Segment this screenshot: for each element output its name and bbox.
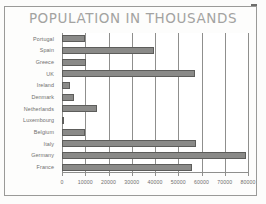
bar-row <box>62 152 248 159</box>
category-label-france: France <box>37 164 54 170</box>
bar-greece[interactable] <box>62 59 86 66</box>
category-axis: PortugalSpainGreeceUKIrelandDenmarkNethe… <box>0 33 58 173</box>
x-tick <box>85 173 86 176</box>
bar-luxembourg[interactable] <box>62 117 64 124</box>
x-tick <box>178 173 179 176</box>
bar-row <box>62 47 248 54</box>
category-label-greece: Greece <box>36 59 54 65</box>
category-label-netherlands: Netherlands <box>24 106 54 112</box>
x-tick <box>132 173 133 176</box>
bar-germany[interactable] <box>62 152 246 159</box>
category-label-spain: Spain <box>40 47 54 53</box>
x-tick <box>248 173 249 176</box>
x-tick-label: 40000 <box>148 179 163 185</box>
x-tick-label: 20000 <box>101 179 116 185</box>
bar-portugal[interactable] <box>62 35 85 42</box>
bar-france[interactable] <box>62 164 192 171</box>
bar-row <box>62 117 248 124</box>
category-label-portugal: Portugal <box>33 36 54 42</box>
gridline <box>248 33 249 173</box>
bar-uk[interactable] <box>62 70 195 77</box>
category-label-italy: Italy <box>44 141 54 147</box>
x-tick-label: 60000 <box>194 179 209 185</box>
category-label-ireland: Ireland <box>37 82 54 88</box>
bar-row <box>62 105 248 112</box>
x-tick-label: 10000 <box>78 179 93 185</box>
category-label-germany: Germany <box>31 152 54 158</box>
x-tick-label: 70000 <box>217 179 232 185</box>
x-tick-label: 50000 <box>171 179 186 185</box>
bar-row <box>62 59 248 66</box>
bar-belgium[interactable] <box>62 129 85 136</box>
bar-netherlands[interactable] <box>62 105 97 112</box>
x-tick-label: 30000 <box>124 179 139 185</box>
category-label-luxembourg: Luxembourg <box>23 117 54 123</box>
x-tick-label: 0 <box>61 179 64 185</box>
x-tick-label: 80000 <box>241 179 256 185</box>
x-axis-ticks <box>62 173 248 177</box>
x-tick <box>225 173 226 176</box>
x-tick <box>202 173 203 176</box>
chart-page: POPULATION IN THOUSANDS PortugalSpainGre… <box>0 0 266 204</box>
x-axis-tick-labels: 0100002000030000400005000060000700008000… <box>0 179 266 189</box>
bar-chart: PortugalSpainGreeceUKIrelandDenmarkNethe… <box>0 0 266 204</box>
bar-ireland[interactable] <box>62 82 70 89</box>
bar-row <box>62 140 248 147</box>
x-tick <box>109 173 110 176</box>
x-tick <box>155 173 156 176</box>
category-label-belgium: Belgium <box>34 129 54 135</box>
bar-row <box>62 164 248 171</box>
bar-italy[interactable] <box>62 140 196 147</box>
category-label-denmark: Denmark <box>31 94 54 100</box>
x-tick <box>62 173 63 176</box>
bar-row <box>62 94 248 101</box>
bar-row <box>62 35 248 42</box>
bar-row <box>62 129 248 136</box>
bar-spain[interactable] <box>62 47 154 54</box>
bar-row <box>62 82 248 89</box>
category-label-uk: UK <box>46 71 54 77</box>
plot-area <box>62 33 248 173</box>
bar-row <box>62 70 248 77</box>
bar-denmark[interactable] <box>62 94 74 101</box>
